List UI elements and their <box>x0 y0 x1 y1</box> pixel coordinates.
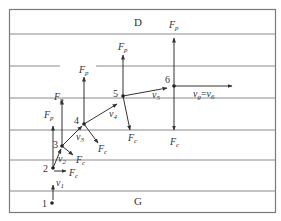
label-fp-5: Fp <box>117 41 128 54</box>
point-label-5: 5 <box>113 88 118 99</box>
point-6 <box>172 84 176 88</box>
label-v1: v1 <box>56 177 64 190</box>
label-fp-2: Fp <box>43 109 54 122</box>
label-v2: v2 <box>58 153 66 166</box>
label-fc-4: Fc <box>97 143 108 156</box>
label-fc-6: Fc <box>169 136 180 149</box>
point-5 <box>121 94 125 98</box>
bank-label-D: D <box>134 16 142 28</box>
label-fp-4: Fp <box>78 64 89 77</box>
point-3 <box>60 144 64 148</box>
label-fp-3: Fp <box>53 91 64 104</box>
arrow-fc-5 <box>123 96 130 130</box>
bank-label-G: G <box>134 195 142 207</box>
point-label-2: 2 <box>43 163 48 174</box>
ship-crossing-river-diagram: D G <box>0 0 281 221</box>
point-label-1: 1 <box>42 198 47 209</box>
point-2 <box>51 166 55 170</box>
point-label-4: 4 <box>74 115 79 126</box>
arrow-fc-3 <box>62 146 73 155</box>
arrow-v5 <box>123 88 167 96</box>
point-label-3: 3 <box>53 139 58 150</box>
label-v3: v3 <box>76 131 84 144</box>
point-label-6: 6 <box>165 74 170 85</box>
label-v5: v5 <box>152 89 160 102</box>
label-fp-6: Fp <box>168 19 179 32</box>
label-vg-v6: vg=v6 <box>193 88 215 101</box>
label-fc-3: Fc <box>75 154 86 167</box>
label-fc-2: Fc <box>68 167 79 180</box>
label-v4: v4 <box>109 108 117 121</box>
point-4 <box>82 122 86 126</box>
point-1 <box>50 201 54 205</box>
label-fc-5: Fc <box>127 132 138 145</box>
arrow-fc-4 <box>84 124 98 143</box>
